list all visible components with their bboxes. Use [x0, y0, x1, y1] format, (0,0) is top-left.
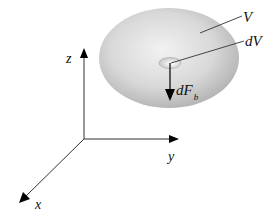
diagram-canvas: V dV dFb z y x: [0, 0, 279, 219]
z-axis-arrowhead: [80, 48, 88, 58]
z-axis-label: z: [65, 51, 72, 66]
y-axis-label: y: [166, 149, 175, 164]
element-label: dV: [245, 33, 264, 49]
x-axis: [25, 139, 84, 197]
volume-label: V: [243, 9, 254, 25]
x-axis-label: x: [34, 197, 42, 212]
y-axis-arrowhead: [169, 135, 179, 143]
force-label-subscript: b: [194, 92, 199, 102]
force-label-main: dF: [176, 82, 194, 98]
